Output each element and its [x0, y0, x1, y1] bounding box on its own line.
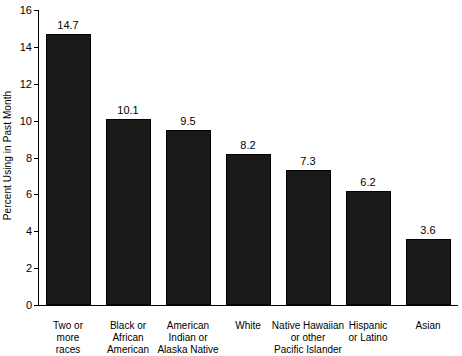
plot-area: 0246810121416 14.710.19.58.27.36.23.6 Tw…	[38, 10, 458, 305]
y-tick-mark	[34, 84, 38, 85]
y-tick-label: 12	[20, 78, 32, 90]
x-tick-label-3: American Indian or Alaska Native	[157, 320, 218, 356]
y-tick-label: 0	[26, 299, 32, 311]
y-tick-label: 6	[26, 188, 32, 200]
y-tick-label: 4	[26, 225, 32, 237]
y-tick-label: 10	[20, 115, 32, 127]
x-tick-label-5: Native Hawaiian or other Pacific Islande…	[272, 320, 344, 356]
y-tick-4: 4	[38, 231, 39, 232]
bar-value-label-1: 14.7	[57, 19, 78, 31]
bar-1	[46, 34, 91, 305]
y-tick-mark	[34, 47, 38, 48]
bar-value-label-6: 6.2	[360, 176, 375, 188]
y-tick-mark	[34, 231, 38, 232]
y-tick-mark	[34, 121, 38, 122]
y-tick-8: 8	[38, 158, 39, 159]
y-tick-6: 6	[38, 194, 39, 195]
y-tick-mark	[34, 268, 38, 269]
bar-2	[106, 119, 151, 305]
y-tick-16: 16	[38, 10, 39, 11]
y-tick-10: 10	[38, 121, 39, 122]
x-tick-label-1: Two or more races	[53, 320, 83, 356]
y-tick-14: 14	[38, 47, 39, 48]
bar-value-label-4: 8.2	[240, 139, 255, 151]
bar-3	[166, 130, 211, 305]
y-tick-label: 2	[26, 262, 32, 274]
x-tick-label-2: Black or African American	[107, 320, 149, 356]
y-tick-mark	[34, 158, 38, 159]
y-tick-mark	[34, 194, 38, 195]
bar-5	[286, 170, 331, 305]
x-axis-line	[38, 305, 458, 306]
bar-value-label-2: 10.1	[117, 104, 138, 116]
x-tick-label-4: White	[235, 320, 261, 332]
y-axis-title-text: Percent Using in Past Month	[3, 90, 14, 219]
bar-4	[226, 154, 271, 305]
y-tick-0: 0	[38, 305, 39, 306]
y-tick-label: 14	[20, 41, 32, 53]
y-tick-label: 16	[20, 4, 32, 16]
y-tick-2: 2	[38, 268, 39, 269]
y-tick-mark	[34, 10, 38, 11]
bar-value-label-5: 7.3	[300, 155, 315, 167]
x-tick-label-6: Hispanic or Latino	[349, 320, 388, 344]
bar-7	[406, 239, 451, 305]
y-tick-mark	[34, 305, 38, 306]
bar-6	[346, 191, 391, 305]
y-tick-label: 8	[26, 152, 32, 164]
bar-value-label-3: 9.5	[180, 115, 195, 127]
x-tick-label-7: Asian	[415, 320, 440, 332]
y-axis-title: Percent Using in Past Month	[0, 0, 16, 310]
bar-value-label-7: 3.6	[420, 224, 435, 236]
y-tick-12: 12	[38, 84, 39, 85]
